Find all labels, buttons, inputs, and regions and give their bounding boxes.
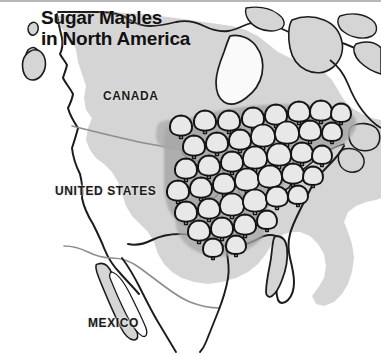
tree-canopy <box>288 186 308 204</box>
tree-canopy <box>175 158 197 178</box>
tree-canopy <box>220 193 244 215</box>
tree-canopy <box>221 151 243 171</box>
tree-canopy <box>235 168 259 190</box>
nova-scotia <box>338 149 364 173</box>
tree-symbol <box>203 239 223 260</box>
tree-canopy <box>226 236 246 254</box>
tree-canopy <box>198 155 220 175</box>
sugar-maple-range-map: Sugar Maples in North America CANADA UNI… <box>0 0 381 355</box>
tree-symbol <box>288 186 308 207</box>
tree-canopy <box>310 100 332 120</box>
tree-canopy <box>198 198 220 218</box>
tree-canopy <box>206 132 228 152</box>
tree-canopy <box>213 173 235 193</box>
tree-canopy <box>167 180 189 200</box>
tree-symbol <box>226 236 246 257</box>
country-label-mexico: MEXICO <box>88 316 139 330</box>
tree-canopy <box>234 214 256 234</box>
tree-canopy <box>267 143 291 165</box>
tree-canopy <box>203 239 223 257</box>
tree-canopy <box>282 163 304 183</box>
tree-canopy <box>218 110 240 130</box>
map-graphic <box>0 0 381 355</box>
tree-canopy <box>257 211 277 229</box>
tree-canopy <box>312 146 332 164</box>
tree-canopy <box>243 146 267 168</box>
tree-canopy <box>258 165 282 187</box>
tree-symbol <box>257 211 277 232</box>
tree-canopy <box>288 101 310 121</box>
tree-symbol <box>303 167 323 188</box>
tree-canopy <box>170 115 192 135</box>
tree-symbol <box>322 123 342 144</box>
queen-charlotte-islands <box>28 22 38 35</box>
tree-canopy <box>175 201 197 221</box>
tree-canopy <box>291 142 313 162</box>
map-title: Sugar Maples in North America <box>41 7 190 49</box>
tree-symbol <box>312 146 332 167</box>
tree-canopy <box>251 124 275 146</box>
tree-canopy <box>266 186 288 206</box>
tree-canopy <box>190 177 212 197</box>
tree-canopy <box>322 123 342 141</box>
arctic-island-east <box>338 14 377 38</box>
tree-canopy <box>183 135 205 155</box>
arctic-island-north <box>246 7 284 31</box>
tree-canopy <box>303 167 323 185</box>
country-label-canada: CANADA <box>103 89 159 103</box>
coastal-island-upper <box>23 50 46 80</box>
tree-canopy <box>299 120 321 140</box>
tree-canopy <box>275 121 299 143</box>
country-label-united-states: UNITED STATES <box>55 184 156 198</box>
tree-canopy <box>243 189 267 211</box>
tree-canopy <box>229 129 251 149</box>
tree-canopy <box>188 220 210 240</box>
tree-canopy <box>194 110 216 130</box>
tree-canopy <box>211 217 233 237</box>
tree-symbol <box>331 104 351 125</box>
tree-canopy <box>331 104 351 122</box>
